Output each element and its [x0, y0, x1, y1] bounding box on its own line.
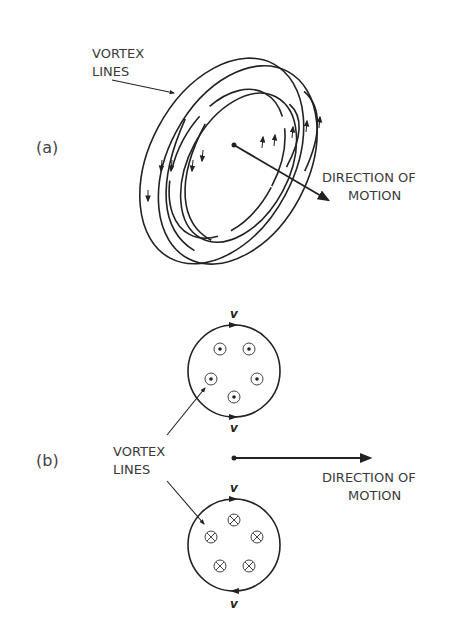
up-arrow-icon: [306, 121, 307, 132]
panel-b-label: (b): [36, 451, 59, 470]
down-arrow-icon: [192, 160, 193, 171]
vortex-ring-diagram: (a) VORTEX LINES: [0, 0, 469, 635]
vortex-ring-torus: [107, 30, 350, 298]
right-arrow-icon: [229, 414, 238, 420]
dot-in-circle-icons: [205, 343, 263, 403]
panel-b: (b) VORTEX LINES v v DIRECTION: [36, 307, 416, 611]
panel-a-label: (a): [36, 138, 58, 157]
top-vortex-cross-section: v v: [188, 307, 280, 435]
up-arrow-icon: [292, 127, 293, 138]
left-arrow-icon: [230, 588, 239, 594]
panel-a: (a) VORTEX LINES: [36, 30, 416, 298]
down-arrow-icon: [171, 160, 172, 171]
inner-ring-front: [157, 74, 320, 262]
right-arrow-icon: [229, 496, 238, 502]
left-arrow-icon: [229, 322, 238, 328]
vortex-lines-label-a-2: LINES: [92, 64, 129, 79]
direction-label-a-1: DIRECTION OF: [322, 170, 416, 185]
vortex-lines-label-b-2: LINES: [113, 462, 150, 477]
cross-in-circle-icons: [205, 514, 263, 572]
velocity-label-top-2: v: [230, 421, 239, 435]
bottom-vortex-cross-section: v v: [188, 481, 280, 611]
vortex-lines-pointer-b-bottom: [167, 481, 204, 524]
bottom-circle: [188, 499, 280, 591]
vortex-lines-pointer-b-top: [167, 388, 205, 435]
velocity-label-bottom-1: v: [230, 481, 239, 495]
direction-of-motion-arrow-a: [234, 145, 328, 200]
velocity-label-bottom-2: v: [230, 597, 239, 611]
swirl-line-4: [263, 104, 314, 167]
swirl-line-1: [133, 119, 247, 251]
up-arrow-icon: [262, 137, 263, 148]
down-arrow-icon: [202, 150, 203, 161]
up-arrow-icon: [319, 117, 320, 128]
vortex-lines-label-a-1: VORTEX: [92, 46, 144, 61]
up-arrow-icon: [274, 135, 275, 146]
direction-label-b-2: MOTION: [348, 488, 401, 503]
direction-label-a-2: MOTION: [348, 188, 401, 203]
direction-label-b-1: DIRECTION OF: [322, 470, 416, 485]
vortex-lines-pointer-a: [112, 80, 174, 93]
velocity-label-top-1: v: [230, 307, 239, 321]
vortex-lines-label-b-1: VORTEX: [113, 444, 165, 459]
outer-ring-front: [126, 38, 349, 291]
outer-ring-back: [107, 30, 337, 292]
